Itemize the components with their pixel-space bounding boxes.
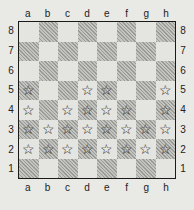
square-e8 [97,22,117,42]
square-e6 [97,61,117,81]
file-label: h [156,8,176,20]
rank-label: 5 [178,80,188,100]
star-outline-icon: ☆ [139,122,152,136]
square-b2: ☆ [39,139,59,159]
star-outline-icon: ☆ [61,122,74,136]
star-outline-icon: ☆ [120,142,133,156]
rank-label: 1 [178,159,188,179]
square-a4: ☆ [19,100,39,120]
square-f2: ☆ [117,139,137,159]
star-outline-icon: ☆ [81,83,94,97]
star-outline-icon: ☆ [22,122,35,136]
square-c7 [58,42,78,62]
square-g7 [136,42,156,62]
star-outline-icon: ☆ [139,142,152,156]
rank-label: 2 [178,140,188,160]
file-label: b [38,8,58,20]
square-g6 [136,61,156,81]
star-outline-icon: ☆ [61,142,74,156]
square-d1 [78,159,98,179]
file-label: e [97,182,117,194]
square-d4: ☆ [78,100,98,120]
rank-labels-right: 8 7 6 5 4 3 2 1 [178,21,188,179]
square-b4 [39,100,59,120]
square-e1 [97,159,117,179]
file-label: b [38,182,58,194]
file-label: e [97,8,117,20]
rank-label: 7 [6,41,16,61]
rank-label: 4 [178,100,188,120]
square-h8 [156,22,176,42]
square-c8 [58,22,78,42]
square-d7 [78,42,98,62]
square-a8 [19,22,39,42]
square-e2: ☆ [97,139,117,159]
star-outline-icon: ☆ [120,103,133,117]
star-outline-icon: ☆ [81,142,94,156]
rank-label: 6 [178,61,188,81]
file-label: f [117,8,137,20]
square-e3: ☆ [97,120,117,140]
square-a5: ☆ [19,81,39,101]
square-h1 [156,159,176,179]
star-outline-icon: ☆ [42,142,55,156]
rank-label: 8 [6,21,16,41]
star-outline-icon: ☆ [159,103,172,117]
rank-label: 4 [6,100,16,120]
star-outline-icon: ☆ [61,103,74,117]
rank-label: 2 [6,140,16,160]
star-outline-icon: ☆ [159,83,172,97]
rank-label: 3 [178,120,188,140]
star-outline-icon: ☆ [100,83,113,97]
square-c3: ☆ [58,120,78,140]
square-g5 [136,81,156,101]
square-d2: ☆ [78,139,98,159]
star-outline-icon: ☆ [120,122,133,136]
star-outline-icon: ☆ [100,142,113,156]
star-outline-icon: ☆ [42,122,55,136]
star-outline-icon: ☆ [159,142,172,156]
file-labels-bottom: a b c d e f g h [18,182,176,194]
file-label: g [137,8,157,20]
square-c5 [58,81,78,101]
square-d5: ☆ [78,81,98,101]
square-e7 [97,42,117,62]
square-b6 [39,61,59,81]
square-a6 [19,61,39,81]
square-f4: ☆ [117,100,137,120]
star-outline-icon: ☆ [159,122,172,136]
square-g3: ☆ [136,120,156,140]
square-h3: ☆ [156,120,176,140]
square-e5: ☆ [97,81,117,101]
star-outline-icon: ☆ [22,103,35,117]
star-outline-icon: ☆ [81,103,94,117]
rank-label: 6 [6,61,16,81]
square-a1 [19,159,39,179]
square-g1 [136,159,156,179]
square-b3: ☆ [39,120,59,140]
file-label: a [18,182,38,194]
square-g2: ☆ [136,139,156,159]
chess-board: ☆☆☆☆☆☆☆☆☆☆☆☆☆☆☆☆☆☆☆☆☆☆☆☆☆☆ [18,21,176,179]
file-label: a [18,8,38,20]
rank-label: 1 [6,159,16,179]
file-label: f [117,182,137,194]
star-outline-icon: ☆ [100,103,113,117]
file-label: c [58,8,78,20]
star-outline-icon: ☆ [100,122,113,136]
square-f7 [117,42,137,62]
square-h5: ☆ [156,81,176,101]
rank-label: 8 [178,21,188,41]
square-b7 [39,42,59,62]
square-c4: ☆ [58,100,78,120]
square-f5 [117,81,137,101]
square-f3: ☆ [117,120,137,140]
file-label: h [156,182,176,194]
square-a7 [19,42,39,62]
rank-label: 5 [6,80,16,100]
file-label: g [137,182,157,194]
star-outline-icon: ☆ [81,122,94,136]
square-g8 [136,22,156,42]
square-d8 [78,22,98,42]
square-b5 [39,81,59,101]
